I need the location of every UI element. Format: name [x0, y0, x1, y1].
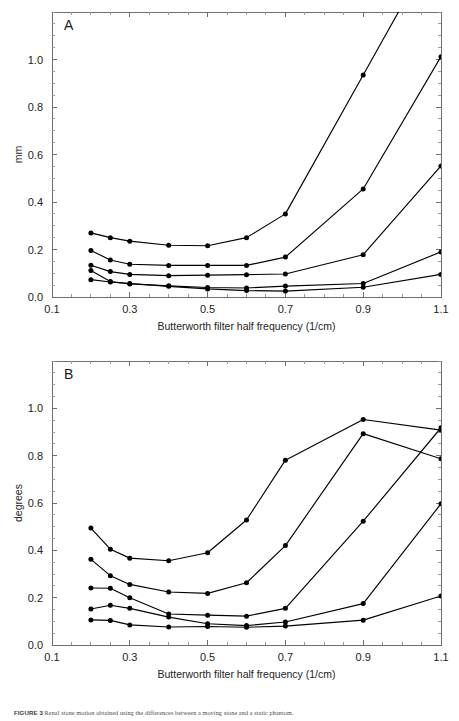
- data-point: [361, 618, 366, 623]
- data-point: [108, 618, 113, 623]
- y-tick-label: 0.2: [28, 592, 43, 604]
- data-point: [361, 72, 366, 77]
- data-point: [127, 262, 132, 267]
- data-point: [88, 248, 93, 253]
- data-point: [108, 603, 113, 608]
- data-point: [244, 580, 249, 585]
- x-tick-label: 0.1: [44, 303, 59, 315]
- x-tick-label: 0.9: [356, 303, 371, 315]
- data-point: [127, 606, 132, 611]
- data-point: [361, 601, 366, 606]
- data-point: [127, 595, 132, 600]
- data-point: [166, 243, 171, 248]
- data-point: [439, 594, 444, 599]
- data-point: [127, 281, 132, 286]
- figure-container: 0.10.30.50.70.91.10.00.20.40.60.81.0Butt…: [0, 0, 459, 721]
- series-line-series-2: [91, 57, 441, 266]
- data-point: [205, 550, 210, 555]
- data-point: [166, 625, 171, 630]
- panel-a-svg: 0.10.30.50.70.91.10.00.20.40.60.81.0Butt…: [0, 0, 459, 348]
- y-tick-label: 0.6: [28, 497, 43, 509]
- series-group: [88, 417, 443, 630]
- data-point: [283, 284, 288, 289]
- y-tick-label: 0.6: [28, 149, 43, 161]
- data-point: [108, 280, 113, 285]
- data-point: [283, 255, 288, 260]
- y-tick-label: 0.0: [28, 639, 43, 651]
- y-tick-label: 1.0: [28, 402, 43, 414]
- x-axis-title: Butterworth filter half frequency (1/cm): [158, 320, 336, 332]
- x-tick-label: 0.3: [122, 303, 137, 315]
- data-point: [108, 235, 113, 240]
- panel-b-plot: 0.10.30.50.70.91.10.00.20.40.60.81.0Butt…: [12, 361, 449, 680]
- plot-frame: [52, 361, 441, 645]
- data-point: [88, 268, 93, 273]
- data-point: [361, 285, 366, 290]
- data-point: [283, 211, 288, 216]
- data-point: [166, 284, 171, 289]
- data-point: [205, 591, 210, 596]
- data-point: [283, 543, 288, 548]
- data-point: [166, 615, 171, 620]
- data-point: [361, 431, 366, 436]
- data-point: [283, 624, 288, 629]
- data-point: [439, 272, 444, 277]
- data-point: [439, 163, 444, 168]
- data-point: [361, 252, 366, 257]
- data-point: [108, 269, 113, 274]
- data-point: [108, 547, 113, 552]
- data-point: [166, 558, 171, 563]
- y-tick-label: 0.0: [28, 291, 43, 303]
- data-point: [88, 230, 93, 235]
- y-tick-label: 0.8: [28, 450, 43, 462]
- data-point: [88, 557, 93, 562]
- y-axis-title: mm: [12, 146, 24, 164]
- series-group: [88, 0, 443, 294]
- data-point: [166, 273, 171, 278]
- panel-b-svg: 0.10.30.50.70.91.10.00.20.40.60.81.0Butt…: [0, 348, 459, 703]
- x-tick-label: 0.5: [200, 303, 215, 315]
- data-point: [439, 501, 444, 506]
- data-point: [205, 613, 210, 618]
- panel-letter: B: [64, 366, 73, 382]
- data-point: [283, 606, 288, 611]
- data-point: [244, 272, 249, 277]
- data-point: [127, 622, 132, 627]
- x-tick-label: 0.9: [356, 651, 371, 663]
- data-point: [283, 271, 288, 276]
- figure-caption-label: FIGURE 3: [14, 709, 43, 716]
- series-line-series-3: [91, 166, 441, 276]
- series-line-series-2: [91, 434, 441, 594]
- data-point: [244, 235, 249, 240]
- x-tick-label: 1.1: [433, 651, 448, 663]
- data-point: [127, 239, 132, 244]
- data-point: [244, 288, 249, 293]
- data-point: [439, 456, 444, 461]
- data-point: [361, 186, 366, 191]
- data-point: [361, 417, 366, 422]
- data-point: [88, 277, 93, 282]
- data-point: [361, 519, 366, 524]
- x-tick-label: 1.1: [433, 303, 448, 315]
- data-point: [205, 273, 210, 278]
- data-point: [127, 582, 132, 587]
- data-point: [205, 263, 210, 268]
- data-point: [88, 607, 93, 612]
- data-point: [244, 614, 249, 619]
- x-tick-label: 0.7: [278, 303, 293, 315]
- data-point: [439, 54, 444, 59]
- x-tick-label: 0.1: [44, 651, 59, 663]
- y-tick-label: 0.2: [28, 244, 43, 256]
- data-point: [244, 263, 249, 268]
- data-point: [88, 263, 93, 268]
- series-line-series-3: [91, 428, 441, 616]
- data-point: [108, 257, 113, 262]
- series-line-series-1: [91, 0, 441, 246]
- data-point: [283, 458, 288, 463]
- data-point: [205, 243, 210, 248]
- y-tick-label: 0.8: [28, 101, 43, 113]
- data-point: [88, 617, 93, 622]
- data-point: [127, 556, 132, 561]
- data-point: [244, 518, 249, 523]
- plot-frame: [52, 12, 441, 297]
